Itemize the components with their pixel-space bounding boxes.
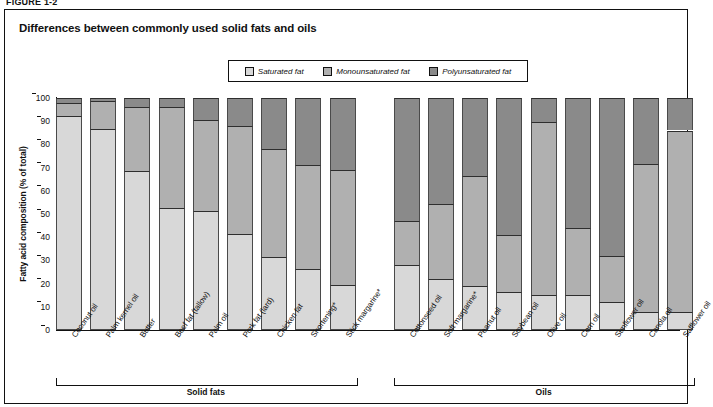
y-tick-20: 20 — [41, 279, 56, 289]
bar-segment-monounsaturated — [428, 204, 454, 281]
bar-segment-polyunsaturated — [124, 98, 150, 107]
bar-canola-oil[interactable] — [633, 98, 659, 330]
bar-corn-oil[interactable] — [565, 98, 591, 330]
y-tick-10: 10 — [41, 302, 56, 312]
bar-beef-fat-tallow[interactable] — [159, 98, 185, 330]
bar-segment-monounsaturated — [394, 221, 420, 266]
bar-segment-monounsaturated — [193, 120, 219, 212]
y-tick-mark — [37, 232, 41, 233]
y-tick-60: 60 — [41, 186, 56, 196]
bar-segment-polyunsaturated — [261, 98, 287, 149]
bar-soybean-oil[interactable] — [496, 98, 522, 330]
y-tick-mark — [37, 162, 41, 163]
bar-segment-monounsaturated — [565, 228, 591, 296]
bar-segment-polyunsaturated — [56, 98, 82, 103]
bracket-solid-fats — [56, 378, 358, 386]
legend-item-monounsaturated: Monounsaturated fat — [323, 67, 409, 76]
bar-cottonseed-oil[interactable] — [394, 98, 420, 330]
y-tick-mark — [32, 93, 36, 94]
y-tick-70: 70 — [41, 163, 56, 173]
bar-segment-monounsaturated — [496, 235, 522, 293]
bar-pork-fat-lard[interactable] — [227, 98, 253, 330]
legend-swatch-polyunsaturated — [429, 67, 438, 76]
bar-segment-saturated — [227, 235, 253, 330]
bar-palm-kernel-oil[interactable] — [90, 98, 116, 330]
bar-series-container — [56, 98, 680, 330]
bar-segment-monounsaturated — [159, 107, 185, 209]
group-label-oils: Oils — [394, 387, 694, 397]
legend-item-saturated: Saturated fat — [245, 67, 304, 76]
bar-segment-monounsaturated — [90, 101, 116, 130]
y-tick-mark — [37, 185, 41, 186]
bar-segment-monounsaturated — [295, 165, 321, 269]
bar-segment-monounsaturated — [330, 170, 356, 286]
y-tick-90: 90 — [41, 116, 56, 126]
figure-number: FIGURE 1-2 — [6, 0, 58, 7]
bar-stick-margarine[interactable] — [330, 98, 356, 330]
legend-label-saturated: Saturated fat — [258, 67, 304, 76]
bar-segment-polyunsaturated — [295, 98, 321, 165]
y-tick-30: 30 — [41, 255, 56, 265]
bar-segment-monounsaturated — [462, 176, 488, 287]
bar-segment-polyunsaturated — [565, 98, 591, 228]
bar-segment-saturated — [159, 209, 185, 330]
y-tick-mark — [37, 255, 41, 256]
bar-segment-polyunsaturated — [428, 98, 454, 204]
bar-segment-monounsaturated — [667, 131, 693, 313]
bar-coconut-oil[interactable] — [56, 98, 82, 330]
y-tick-40: 40 — [41, 232, 56, 242]
y-tick-mark — [37, 278, 41, 279]
bar-safflower-oil[interactable] — [667, 98, 693, 330]
bar-segment-polyunsaturated — [633, 98, 659, 164]
bar-segment-polyunsaturated — [159, 98, 185, 107]
bar-segment-polyunsaturated — [531, 98, 557, 122]
y-tick-100: 100 — [36, 93, 56, 103]
y-tick-mark — [37, 209, 41, 210]
bar-segment-monounsaturated — [599, 256, 625, 304]
bar-segment-polyunsaturated — [599, 98, 625, 256]
y-tick-mark — [37, 301, 41, 302]
chart-title: Differences between commonly used solid … — [19, 22, 317, 34]
bar-segment-monounsaturated — [227, 126, 253, 235]
legend-label-polyunsaturated: Polyunsaturated fat — [442, 67, 511, 76]
bar-segment-polyunsaturated — [394, 98, 420, 221]
bar-segment-monounsaturated — [633, 164, 659, 312]
bar-segment-saturated — [90, 130, 116, 330]
bar-segment-polyunsaturated — [330, 98, 356, 170]
bar-segment-monounsaturated — [56, 103, 82, 117]
group-label-solid-fats: Solid fats — [56, 387, 356, 397]
bar-segment-polyunsaturated — [227, 98, 253, 126]
bar-olive-oil[interactable] — [531, 98, 557, 330]
bar-segment-polyunsaturated — [667, 98, 693, 130]
bar-segment-polyunsaturated — [90, 98, 116, 101]
bar-segment-polyunsaturated — [193, 98, 219, 120]
y-axis-label: Fatty acid composition (% of total) — [18, 98, 32, 330]
plot-area: 0102030405060708090100 — [56, 98, 680, 330]
bar-segment-monounsaturated — [124, 107, 150, 172]
bar-segment-monounsaturated — [531, 122, 557, 296]
bracket-oils — [394, 378, 696, 386]
legend-item-polyunsaturated: Polyunsaturated fat — [429, 67, 511, 76]
y-tick-80: 80 — [41, 139, 56, 149]
y-tick-mark — [37, 116, 41, 117]
legend-label-monounsaturated: Monounsaturated fat — [336, 67, 409, 76]
bar-segment-polyunsaturated — [496, 98, 522, 235]
bar-shortening[interactable] — [295, 98, 321, 330]
legend-swatch-monounsaturated — [323, 67, 332, 76]
legend-swatch-saturated — [245, 67, 254, 76]
bar-segment-polyunsaturated — [462, 98, 488, 176]
bar-segment-monounsaturated — [261, 149, 287, 258]
y-tick-50: 50 — [41, 209, 56, 219]
y-tick-mark — [41, 325, 45, 326]
bar-segment-saturated — [261, 258, 287, 330]
bar-chicken-fat[interactable] — [261, 98, 287, 330]
y-tick-mark — [37, 139, 41, 140]
bar-segment-saturated — [56, 117, 82, 330]
bar-sunflower-oil[interactable] — [599, 98, 625, 330]
chart-legend: Saturated fatMonounsaturated fatPolyunsa… — [228, 60, 528, 82]
y-tick-0: 0 — [45, 325, 56, 335]
